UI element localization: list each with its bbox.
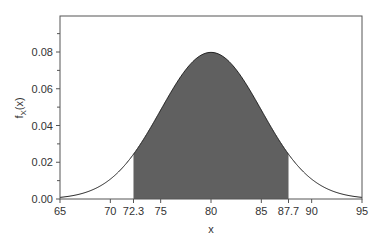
svg-text:75: 75 [155,205,167,217]
svg-text:87.7: 87.7 [278,205,299,217]
shaded-area [133,52,288,199]
svg-text:0.08: 0.08 [32,46,53,58]
svg-text:90: 90 [306,205,318,217]
svg-text:72.3: 72.3 [123,205,144,217]
svg-text:0.04: 0.04 [32,120,53,132]
svg-text:65: 65 [54,205,66,217]
y-axis-ticks: 0.000.020.040.060.08 [32,34,60,205]
svg-text:0.02: 0.02 [32,156,53,168]
normal-density-chart: 657072.375808587.79095 0.000.020.040.060… [0,0,379,244]
svg-text:85: 85 [255,205,267,217]
svg-text:80: 80 [205,205,217,217]
svg-text:fX(x): fX(x) [13,97,28,118]
y-axis-label: fX(x) [13,97,28,118]
x-axis-label: x [208,223,214,235]
x-axis-ticks: 657072.375808587.79095 [54,199,368,217]
svg-text:0.00: 0.00 [32,193,53,205]
svg-text:70: 70 [104,205,116,217]
svg-text:0.06: 0.06 [32,83,53,95]
svg-text:95: 95 [356,205,368,217]
